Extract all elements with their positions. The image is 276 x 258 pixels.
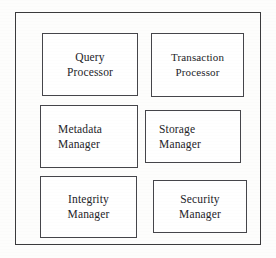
component-label-line2: Manager	[179, 207, 221, 222]
component-label-line1: Query	[75, 50, 105, 65]
component-label-line2: Processor	[67, 65, 113, 80]
component-label-line1: Integrity	[68, 192, 109, 207]
component-label-line1: Security	[180, 192, 220, 207]
component-label-line2: Manager	[58, 137, 100, 152]
component-box-storage-manager[interactable]: Storage Manager	[145, 110, 241, 163]
component-box-transaction-processor[interactable]: Transaction Processor	[151, 33, 244, 97]
component-box-security-manager[interactable]: Security Manager	[153, 180, 247, 233]
component-box-query-processor[interactable]: Query Processor	[42, 33, 138, 96]
component-box-integrity-manager[interactable]: Integrity Manager	[40, 176, 137, 238]
component-label-line1: Transaction	[171, 50, 224, 65]
component-label-line2: Manager	[159, 137, 201, 152]
component-label-line1: Storage	[159, 122, 195, 137]
diagram-canvas: Query Processor Transaction Processor Me…	[0, 0, 276, 258]
component-box-metadata-manager[interactable]: Metadata Manager	[40, 105, 138, 168]
component-label-line2: Processor	[175, 65, 219, 80]
component-label-line1: Metadata	[58, 122, 102, 137]
component-label-line2: Manager	[68, 207, 110, 222]
